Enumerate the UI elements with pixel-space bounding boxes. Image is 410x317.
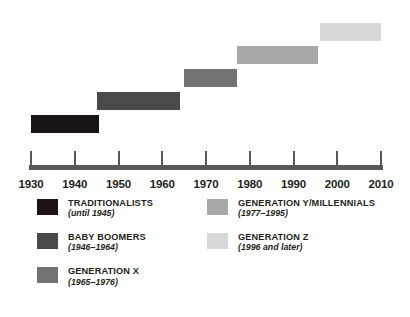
legend-text: TRADITIONALISTS(until 1945) [68, 198, 153, 219]
legend-text: GENERATION X(1965–1976) [68, 266, 139, 287]
axis-tick [380, 151, 382, 170]
timeline-bar [31, 115, 99, 133]
axis-tick-label: 2000 [325, 178, 350, 190]
legend-text: GENERATION Y/MILLENNIALS(1977–1995) [238, 198, 375, 219]
legend-years: (1946–1964) [68, 243, 146, 253]
timeline-axis [0, 148, 410, 180]
legend-title: GENERATION Y/MILLENNIALS [238, 198, 375, 208]
legend-item-baby-boomers[interactable]: BABY BOOMERS(1946–1964) [37, 232, 202, 253]
axis-tick-labels: 193019401950196019701980199020002010 [0, 178, 410, 196]
axis-tick-label: 1940 [62, 178, 87, 190]
axis-tick-label: 1950 [106, 178, 131, 190]
legend-item-traditionalists[interactable]: TRADITIONALISTS(until 1945) [37, 198, 202, 219]
legend-years: (1965–1976) [68, 278, 139, 288]
legend-column-right: GENERATION Y/MILLENNIALS(1977–1995)GENER… [207, 198, 407, 266]
legend-item-generation-y[interactable]: GENERATION Y/MILLENNIALS(1977–1995) [207, 198, 407, 219]
chart-legend: TRADITIONALISTS(until 1945)BABY BOOMERS(… [0, 198, 410, 308]
axis-tick [74, 151, 76, 166]
axis-tick-label: 1930 [19, 178, 44, 190]
axis-tick-label: 1980 [237, 178, 262, 190]
legend-item-generation-z[interactable]: GENERATION Z(1996 and later) [207, 232, 407, 253]
legend-title: GENERATION Z [238, 232, 309, 242]
timeline-bar [320, 23, 381, 41]
axis-tick-label: 1990 [281, 178, 306, 190]
legend-title: GENERATION X [68, 266, 139, 276]
axis-tick-label: 2010 [369, 178, 394, 190]
timeline-plot-area [0, 0, 410, 150]
legend-text: GENERATION Z(1996 and later) [238, 232, 309, 253]
legend-years: (until 1945) [68, 209, 153, 219]
legend-years: (1996 and later) [238, 243, 309, 253]
axis-tick-label: 1960 [150, 178, 175, 190]
generations-timeline-chart: 193019401950196019701980199020002010 TRA… [0, 0, 410, 317]
axis-tick [118, 151, 120, 166]
axis-tick [30, 151, 32, 170]
legend-swatch-traditionalists [37, 199, 58, 215]
legend-text: BABY BOOMERS(1946–1964) [68, 232, 146, 253]
legend-column-left: TRADITIONALISTS(until 1945)BABY BOOMERS(… [37, 198, 202, 300]
legend-swatch-baby-boomers [37, 233, 58, 249]
axis-tick [205, 151, 207, 166]
legend-swatch-generation-y [207, 199, 228, 215]
axis-tick [336, 151, 338, 166]
axis-tick [249, 151, 251, 166]
timeline-bar [184, 69, 237, 87]
legend-swatch-generation-z [207, 233, 228, 249]
legend-item-generation-x[interactable]: GENERATION X(1965–1976) [37, 266, 202, 287]
timeline-bar [97, 92, 180, 110]
axis-tick-label: 1970 [194, 178, 219, 190]
axis-tick [293, 151, 295, 166]
timeline-bar [237, 46, 318, 64]
legend-swatch-generation-x [37, 267, 58, 283]
legend-title: TRADITIONALISTS [68, 198, 153, 208]
axis-tick [161, 151, 163, 166]
legend-years: (1977–1995) [238, 209, 375, 219]
legend-title: BABY BOOMERS [68, 232, 146, 242]
